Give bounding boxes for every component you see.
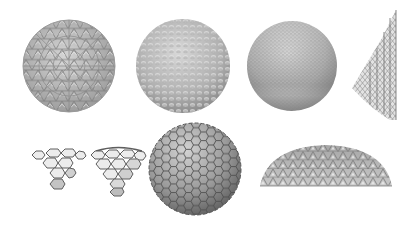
geodesic-sphere-fine [245, 19, 340, 113]
lattice-cone-section [350, 8, 400, 120]
hex-sphere [146, 119, 244, 218]
hex-patch-curved [88, 143, 148, 197]
geodesic-dome [258, 143, 394, 189]
geodesic-sphere-dimpled [133, 18, 233, 115]
geodesic-sphere-triangulated [20, 18, 118, 114]
hex-patch-flat [28, 145, 88, 191]
